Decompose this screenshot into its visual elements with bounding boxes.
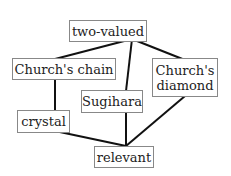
edge-two-valued-churchs-diamond xyxy=(132,39,185,60)
node-churchs-chain: Church's chain xyxy=(12,58,116,80)
node-sugihara: Sugihara xyxy=(81,90,143,113)
edge-two-valued-sugihara xyxy=(126,39,132,91)
edge-crystal-relevant xyxy=(55,131,126,146)
node-churchs-diamond: Church's diamond xyxy=(152,58,218,97)
node-relevant: relevant xyxy=(94,146,154,168)
edge-two-valued-churchs-chain xyxy=(55,39,132,59)
node-crystal: crystal xyxy=(17,110,70,133)
node-two-valued: two-valued xyxy=(69,20,147,42)
